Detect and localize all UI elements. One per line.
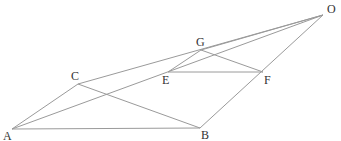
segment-gf xyxy=(201,50,263,72)
point-label-a: A xyxy=(3,129,12,141)
segment-eg xyxy=(168,50,201,72)
point-label-c: C xyxy=(71,69,79,83)
point-label-o: O xyxy=(327,2,336,16)
point-label-b: B xyxy=(201,128,209,141)
point-label-e: E xyxy=(162,73,169,87)
geometry-diagram: ABCEFGO xyxy=(0,0,341,141)
segment-ab xyxy=(12,128,200,129)
segment-go xyxy=(201,15,323,50)
segment-ao xyxy=(12,15,323,129)
point-label-g: G xyxy=(196,35,205,49)
segment-cb xyxy=(78,84,200,128)
segments xyxy=(12,15,323,129)
point-label-f: F xyxy=(264,73,271,87)
segment-ac xyxy=(12,84,78,129)
